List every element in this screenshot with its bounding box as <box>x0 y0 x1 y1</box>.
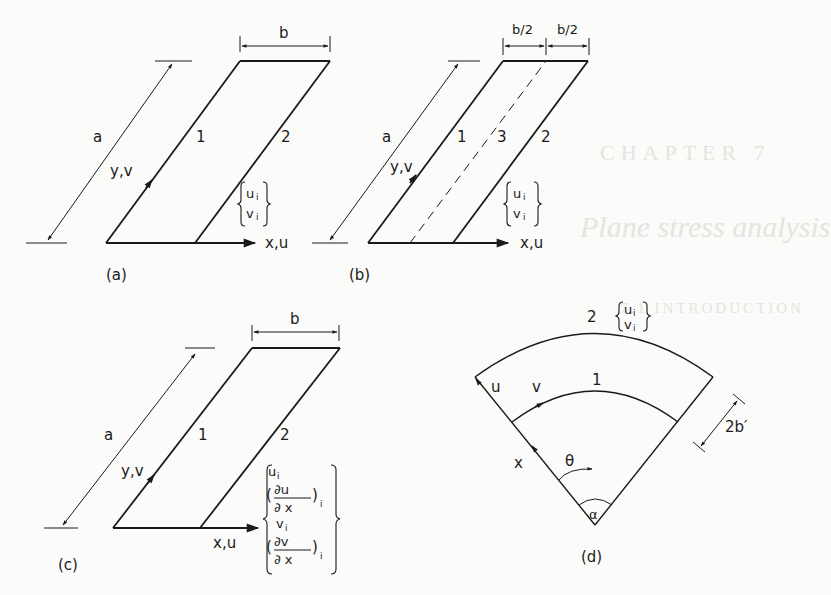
caption-c: (c) <box>58 556 78 574</box>
dimension-a-b <box>312 61 480 243</box>
nodal-line-3-dashed <box>410 61 546 243</box>
svg-text:u: u <box>624 302 632 317</box>
label-x: x <box>514 454 523 472</box>
svg-text:): ) <box>312 538 318 556</box>
label-xu: x,u <box>265 234 288 252</box>
y-axis-arrow <box>146 180 152 188</box>
caption-b: (b) <box>349 266 370 284</box>
label-yv: y,v <box>121 462 144 480</box>
dimension-a-a <box>26 61 192 243</box>
label-yv: y,v <box>390 158 413 176</box>
svg-text:i: i <box>277 471 280 481</box>
svg-text:i: i <box>285 523 288 533</box>
caption-a: (a) <box>106 266 127 284</box>
svg-text:∂ x: ∂ x <box>274 552 293 567</box>
label-a: a <box>382 128 391 146</box>
label-v: v <box>532 378 541 396</box>
svg-text:∂v: ∂v <box>274 534 289 549</box>
svg-text:i: i <box>523 192 526 202</box>
label-a: a <box>93 128 102 146</box>
panel-b: b/2 b/2 a y,v 1 3 2 x,u (b) u i v i <box>312 22 589 284</box>
sector-strip-outline <box>475 334 713 526</box>
label-xu: x,u <box>520 234 543 252</box>
caption-d: (d) <box>581 548 602 566</box>
svg-text:(: ( <box>266 486 272 504</box>
y-axis-arrow <box>148 475 154 483</box>
svg-text:u: u <box>268 464 276 479</box>
svg-text:i: i <box>633 323 636 333</box>
nodal-line-1-label: 1 <box>196 128 206 146</box>
label-a: a <box>104 426 113 444</box>
nodal-line-2-label: 2 <box>587 308 597 326</box>
nodal-line-2-label: 2 <box>541 128 551 146</box>
label-b: b <box>290 310 300 328</box>
dof-vector-a: u i v i <box>238 182 270 226</box>
dof-vector-b: u i v i <box>504 182 541 226</box>
svg-text:i: i <box>256 192 259 202</box>
dimension-half-widths-b <box>503 38 589 55</box>
svg-text:v: v <box>624 317 632 332</box>
svg-text:∂u: ∂u <box>274 482 289 497</box>
label-alpha: α <box>589 507 598 522</box>
nodal-line-1-label: 1 <box>457 128 467 146</box>
panel-c: b a y,v 1 2 x,u (c) u i ( ∂u ∂ x ) i v i… <box>44 310 340 574</box>
svg-text:(: ( <box>266 538 272 556</box>
label-b-half-2: b/2 <box>557 22 578 37</box>
strip-outline-c <box>113 348 340 528</box>
svg-text:i: i <box>320 551 323 561</box>
strip-outline-b <box>368 61 588 243</box>
panel-a: b a y,v 1 2 x,u (a) u i v i <box>26 24 330 284</box>
nodal-line-2-label: 2 <box>280 426 290 444</box>
svg-text:i: i <box>523 212 526 222</box>
nodal-line-2-label: 2 <box>281 128 291 146</box>
svg-text:v: v <box>276 516 284 531</box>
svg-text:v: v <box>246 206 254 221</box>
svg-text:u: u <box>246 186 254 201</box>
alpha-arc <box>579 499 612 505</box>
label-u: u <box>491 378 501 396</box>
dof-vector-c: u i ( ∂u ∂ x ) i v i ( ∂v ∂ x ) i <box>263 464 340 574</box>
label-b-half-1: b/2 <box>512 22 533 37</box>
dimension-a-c <box>44 348 215 528</box>
label-xu: x,u <box>213 534 236 552</box>
nodal-line-1-label: 1 <box>592 371 602 389</box>
strip-outline-a <box>106 61 330 243</box>
svg-text:i: i <box>633 308 636 318</box>
label-yv: y,v <box>110 162 133 180</box>
nodal-line-3-label: 3 <box>497 128 507 146</box>
svg-text:i: i <box>256 212 259 222</box>
svg-text:∂ x: ∂ x <box>274 500 293 515</box>
panel-d: 2 1 u v x θ α 2b′ (d) u i v i <box>475 302 748 566</box>
svg-text:i: i <box>320 499 323 509</box>
v-arrow <box>535 403 543 407</box>
label-b: b <box>279 24 289 42</box>
svg-text:v: v <box>513 206 521 221</box>
label-strip-width: 2b′ <box>725 418 748 436</box>
label-theta: θ <box>565 452 574 470</box>
svg-text:u: u <box>513 186 521 201</box>
dof-vector-d: u i v i <box>616 302 650 333</box>
nodal-line-1-label: 1 <box>198 426 208 444</box>
theta-arrow <box>559 469 592 480</box>
svg-text:): ) <box>312 486 318 504</box>
